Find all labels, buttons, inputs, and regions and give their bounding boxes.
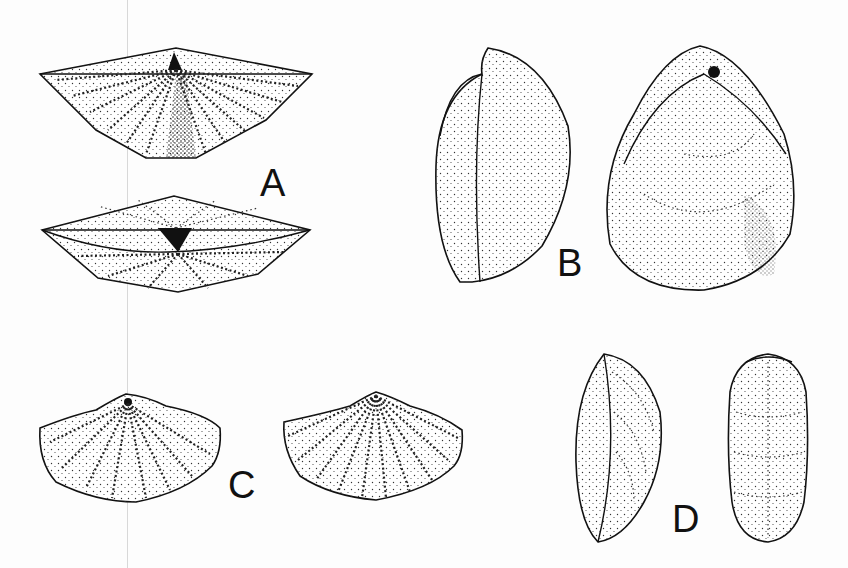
figure-b-ventral-view (604, 44, 800, 294)
figure-c-ventral-view (280, 390, 466, 502)
figure-d-dorsal-view (726, 352, 810, 544)
figure-a-anterior-view (38, 192, 314, 296)
figure-label-a: A (260, 164, 285, 202)
figure-b-lateral-view (432, 46, 577, 286)
figure-c-dorsal-view (36, 392, 226, 504)
figure-label-d: D (672, 500, 699, 538)
figure-a-dorsal-view (36, 40, 316, 165)
figure-label-b: B (557, 244, 582, 282)
figure-d-lateral-view (574, 352, 666, 546)
fossil-plate: A B C (0, 0, 848, 568)
figure-label-c: C (228, 466, 255, 504)
